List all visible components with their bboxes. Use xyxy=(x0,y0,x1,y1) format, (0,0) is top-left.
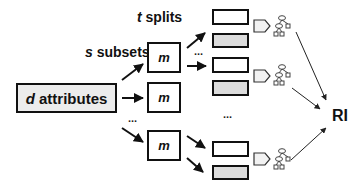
block-arrow-icon xyxy=(254,153,270,165)
split-train-rect xyxy=(212,57,249,73)
ri-label: RI xyxy=(332,108,348,124)
d-variable: d xyxy=(26,90,35,107)
model-box: m xyxy=(147,130,181,161)
split-test-rect xyxy=(212,80,249,96)
model-box: m xyxy=(147,42,181,73)
splits-text: splits xyxy=(142,9,182,25)
split-test-rect xyxy=(212,33,249,48)
tree-icon xyxy=(274,65,290,85)
model-box: m xyxy=(147,82,181,113)
ellipsis-splits-top: ... xyxy=(194,45,203,57)
subsets-text: subsets xyxy=(93,44,150,60)
attributes-box: d attributes xyxy=(16,83,117,113)
tree-icon xyxy=(274,149,290,169)
block-arrows xyxy=(254,20,270,165)
tree-to-ri-arrows xyxy=(291,32,326,160)
block-arrow-icon xyxy=(254,20,270,32)
tree-icon xyxy=(274,16,290,36)
split-train-rect xyxy=(212,9,249,25)
block-arrow-icon xyxy=(254,70,270,82)
split-train-rect xyxy=(212,141,249,157)
splits-label: t splits xyxy=(137,10,182,24)
s-variable: s xyxy=(85,44,93,60)
split-test-rect xyxy=(212,165,249,180)
ellipsis-splits-middle: ... xyxy=(223,108,232,120)
ellipsis-subsets: ... xyxy=(128,112,137,124)
attr-to-subset-arrows xyxy=(122,64,143,142)
subsets-label: s subsets xyxy=(85,45,150,59)
attributes-text: attributes xyxy=(35,90,108,107)
